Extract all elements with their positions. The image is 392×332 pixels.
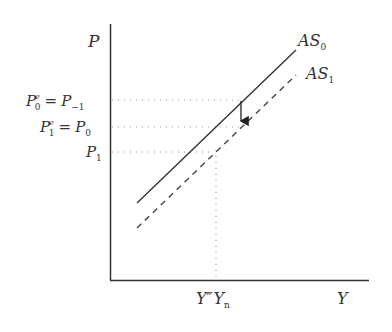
as1-label: AS1 <box>304 64 334 85</box>
y-axis-label: P <box>87 31 100 51</box>
price-label-p1: P1 <box>85 143 102 163</box>
price-label-p1e: Pe1=P0 <box>39 118 91 138</box>
price-label-p0e: Pe0=P−1 <box>25 92 85 112</box>
as-shift-diagram: P Y AS0 AS1 Pe0=P−1 Pe1=P0 P1 Y″Yn <box>0 0 392 332</box>
x-axis-label: Y <box>337 289 349 308</box>
as0-label: AS0 <box>296 31 327 52</box>
output-label: Y″Yn <box>196 289 230 310</box>
